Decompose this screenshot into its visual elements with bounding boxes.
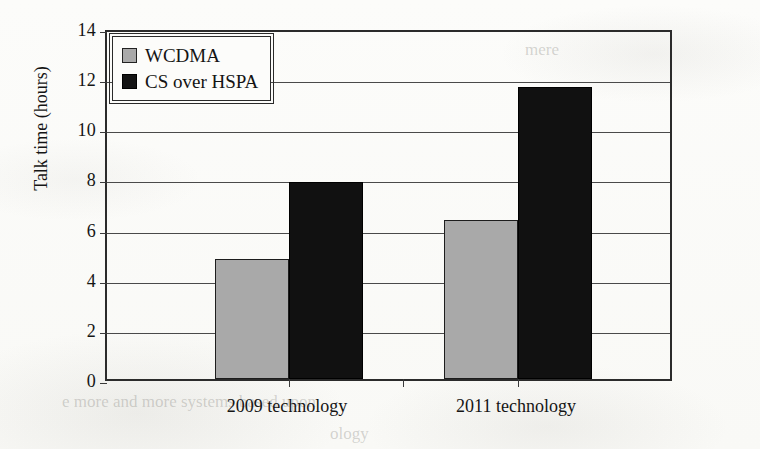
bar-2011-technology-cs-over-hspa [518, 87, 592, 379]
legend-label: WCDMA [145, 46, 220, 65]
x-tick-mark-center [403, 379, 404, 387]
y-tick-label: 12 [78, 70, 96, 91]
y-axis-tick-labels: 02468101214 [62, 30, 96, 381]
x-tick-mark [289, 379, 290, 387]
y-tick-label: 6 [87, 220, 96, 241]
chart-legend: WCDMACS over HSPA [112, 36, 271, 101]
y-tick-label: 0 [87, 371, 96, 392]
gray-square-icon [122, 48, 137, 63]
y-tick-label: 8 [87, 170, 96, 191]
y-tick-mark [100, 182, 107, 183]
y-tick-mark [100, 32, 107, 33]
legend-item-cs-over-hspa: CS over HSPA [122, 68, 258, 94]
bar-2009-technology-cs-over-hspa [289, 182, 363, 379]
y-tick-mark [100, 132, 107, 133]
y-tick-mark [100, 283, 107, 284]
y-tick-label: 14 [78, 20, 96, 41]
bar-2009-technology-wcdma [215, 259, 289, 379]
y-axis-title: Talk time (hours) [31, 14, 52, 244]
y-tick-label: 2 [87, 320, 96, 341]
bar-2011-technology-wcdma [444, 220, 518, 379]
y-tick-mark [100, 333, 107, 334]
y-tick-mark [100, 383, 107, 384]
y-tick-mark [100, 82, 107, 83]
x-axis-label-1: 2009 technology [227, 396, 347, 417]
black-square-icon [122, 74, 137, 89]
x-axis-label-2: 2011 technology [456, 396, 576, 417]
y-tick-label: 10 [78, 120, 96, 141]
legend-label: CS over HSPA [145, 72, 258, 91]
x-tick-mark [518, 379, 519, 387]
legend-item-wcdma: WCDMA [122, 42, 258, 68]
y-tick-label: 4 [87, 270, 96, 291]
bar-chart-figure: Talk time (hours) 02468101214 2009 techn… [0, 0, 760, 449]
y-tick-mark [100, 233, 107, 234]
